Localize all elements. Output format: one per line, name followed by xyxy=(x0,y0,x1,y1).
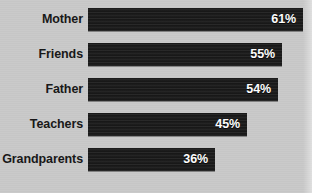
bar-track: 55% xyxy=(88,43,282,66)
bar-track: 61% xyxy=(88,8,303,31)
bar-category-label: Mother xyxy=(0,8,83,31)
bar-fill: 45% xyxy=(88,113,247,136)
bar-row: Friends 55% xyxy=(0,43,312,66)
bar-row: Teachers 45% xyxy=(0,113,312,136)
bar-value-label: 61% xyxy=(271,8,296,31)
bar-row: Father 54% xyxy=(0,78,312,101)
bar-track: 36% xyxy=(88,148,215,171)
bar-row: Mother 61% xyxy=(0,8,312,31)
bar-value-label: 55% xyxy=(250,43,275,66)
bar-fill: 36% xyxy=(88,148,215,171)
bar-value-label: 54% xyxy=(246,78,271,101)
bar-value-label: 45% xyxy=(215,113,240,136)
bar-row: Grandparents 36% xyxy=(0,148,312,171)
bar-track: 45% xyxy=(88,113,247,136)
horizontal-bar-chart: Mother 61% Friends 55% Father 54% xyxy=(0,0,312,193)
bar-category-label: Friends xyxy=(0,43,83,66)
chart-plot-area: Mother 61% Friends 55% Father 54% xyxy=(0,0,312,193)
bar-fill: 55% xyxy=(88,43,282,66)
bar-category-label: Teachers xyxy=(0,113,83,136)
bar-track: 54% xyxy=(88,78,278,101)
bar-fill: 54% xyxy=(88,78,278,101)
bar-category-label: Grandparents xyxy=(0,148,83,171)
bar-value-label: 36% xyxy=(183,148,208,171)
bar-category-label: Father xyxy=(0,78,83,101)
bar-fill: 61% xyxy=(88,8,303,31)
